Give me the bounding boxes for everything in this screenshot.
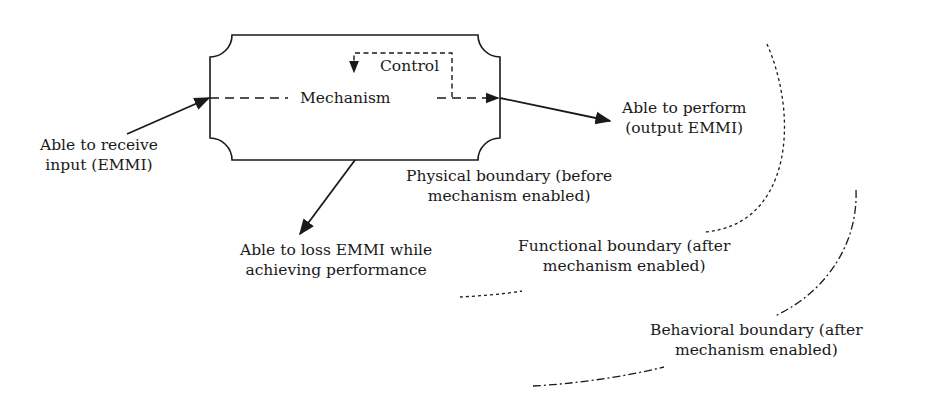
input-arrow (127, 98, 209, 134)
control-label: Control (380, 56, 439, 76)
physical-boundary-label: Physical boundary (before mechanism enab… (406, 166, 612, 206)
input-label: Able to receive input (EMMI) (40, 135, 158, 175)
behavioral-boundary-arc (775, 190, 856, 316)
output-arrow (500, 98, 610, 121)
output-label: Able to perform (output EMMI) (622, 98, 746, 138)
functional-boundary-label: Functional boundary (after mechanism ena… (518, 236, 730, 276)
behavioral-boundary-arc-lower (533, 367, 664, 386)
behavioral-boundary-label: Behavioral boundary (after mechanism ena… (650, 320, 863, 360)
loss-label: Able to loss EMMI while achieving perfor… (240, 240, 432, 280)
loss-arrow (300, 160, 355, 234)
mechanism-label: Mechanism (300, 88, 391, 108)
functional-boundary-arc (705, 44, 784, 232)
functional-boundary-arc-lower (460, 291, 522, 297)
